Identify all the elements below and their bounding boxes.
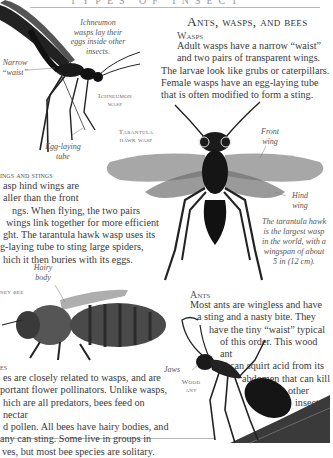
text-line: any can sting. Some live in groups in (0, 433, 170, 445)
text-line: es are closely related to wasps, and are (0, 372, 170, 384)
text-line: hich are all predators, bees feed on nec… (0, 397, 170, 422)
label-line: Wood (176, 378, 206, 386)
label-line: Ichneumon (92, 92, 138, 100)
narrow-waist-label: Narrow “waist” (0, 58, 30, 77)
text-line: aller than the front (0, 192, 160, 204)
honey-bee-image (0, 280, 180, 360)
text-line: Female wasps have an egg-laying tube (161, 77, 333, 89)
caption-line: wingspan of about (256, 247, 332, 257)
caption-line: wasps lay their (68, 28, 128, 38)
text-line: ves, but most bee species are solitary. (0, 446, 170, 458)
label-line: Hairy (30, 263, 56, 273)
wasps-paragraph: Adult wasps have a narrow “waist” and tw… (161, 40, 333, 101)
bees-paragraph: es are closely related to wasps, and are… (0, 372, 170, 458)
wings-stings-paragraph: asp hind wings are aller than the front … (0, 180, 160, 266)
text-line: g-laying tube to sting large spiders, (0, 241, 160, 253)
hind-wing-label: Hind wing (285, 191, 315, 210)
honey-bee-label: ney bee (0, 288, 24, 296)
label-line: “waist” (0, 68, 30, 78)
label-line: ant (176, 386, 206, 394)
tarantula-hawk-wasp-label: Tarantula hawk wasp (116, 128, 156, 144)
label-line: Hind (285, 191, 315, 201)
text-line: Adult wasps have a narrow “waist” (161, 40, 333, 52)
wings-stings-heading: ings and stings (0, 170, 53, 180)
caption-line: Ichneumon (68, 18, 128, 28)
text-line: ght. The tarantula hawk wasp uses its (0, 229, 160, 241)
tarantula-caption: The tarantula hawk is the largest wasp i… (256, 217, 332, 267)
caption-line: eggs inside other (68, 37, 128, 47)
text-line: d pollen. All bees have hairy bodies, an… (0, 421, 170, 433)
label-line: Narrow (0, 58, 30, 68)
caption-line: insects. (68, 47, 128, 57)
text-line: The larvae look like grubs or caterpilla… (161, 65, 333, 77)
page-title: Ants, wasps, and bees (187, 14, 307, 30)
caption-line: The tarantula hawk (256, 217, 332, 227)
text-line: and two pairs of transparent wings. (161, 52, 333, 64)
text-line: wings link together for more efficient (0, 217, 160, 229)
label-line: Tarantula (116, 128, 156, 136)
caption-line: is the largest wasp (256, 227, 332, 237)
bees-heading: es (0, 362, 7, 372)
text-line: portant flower pollinators. Unlike wasps… (0, 384, 170, 396)
label-line: wing (255, 137, 285, 147)
ichneumon-caption: Ichneumon wasps lay their eggs inside ot… (68, 18, 128, 56)
jaws-label: Jaws (164, 365, 180, 375)
label-line: body (30, 273, 56, 283)
text-line: ngs. When flying, the two pairs (0, 205, 160, 217)
front-wing-label: Front wing (255, 127, 285, 146)
text-line: asp hind wings are (0, 180, 160, 192)
caption-line: in the world, with a (256, 237, 332, 247)
hairy-body-label: Hairy body (30, 263, 56, 282)
caption-line: 5 in (12 cm). (256, 257, 332, 267)
label-line: wing (285, 201, 315, 211)
text-line: hich it then buries with its eggs. (0, 254, 160, 266)
label-line: Front (255, 127, 285, 137)
label-line: hawk wasp (116, 136, 156, 144)
wood-ant-label: Wood ant (176, 378, 206, 394)
wood-ant-image (180, 300, 330, 443)
